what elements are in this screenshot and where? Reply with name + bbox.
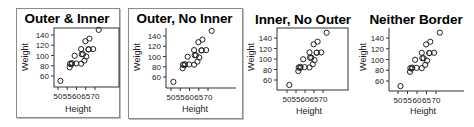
data-point <box>200 37 205 42</box>
plot-area: 60801001201405055606570 <box>356 0 474 127</box>
x-tick-label: 70 <box>432 96 441 105</box>
y-tick-label: 80 <box>152 63 161 72</box>
x-tick-label: 65 <box>194 93 203 102</box>
y-tick-label: 140 <box>36 31 50 40</box>
data-point <box>398 84 403 89</box>
data-point <box>413 57 418 62</box>
y-tick-label: 100 <box>371 56 385 65</box>
y-tick-label: 80 <box>40 62 49 71</box>
y-tick-label: 140 <box>371 34 385 43</box>
x-tick-label: 70 <box>91 92 100 101</box>
data-point <box>428 39 433 44</box>
panel-outer-no-inner: Outer, No Inner Weight Height 6080100120… <box>118 0 246 127</box>
y-tick-label: 60 <box>152 73 161 82</box>
x-tick-label: 50 <box>54 92 63 101</box>
x-tick-label: 50 <box>167 93 176 102</box>
y-tick-label: 80 <box>263 66 272 75</box>
y-tick-label: 120 <box>259 45 273 54</box>
plot-area: 60801001201405055606570 <box>118 0 246 127</box>
data-point <box>185 54 190 59</box>
data-point <box>209 28 214 33</box>
data-point <box>315 39 320 44</box>
y-tick-label: 120 <box>36 41 50 50</box>
x-tick-label: 55 <box>176 93 185 102</box>
y-tick-label: 120 <box>148 42 162 51</box>
y-tick-label: 120 <box>371 45 385 54</box>
data-point <box>79 61 84 66</box>
data-point <box>423 62 428 67</box>
x-tick-label: 65 <box>422 96 431 105</box>
data-point <box>87 36 92 41</box>
data-point <box>437 30 442 35</box>
panel-neither-border: Neither Border Weight Height 60801001201… <box>356 0 474 127</box>
x-tick-label: 60 <box>185 93 194 102</box>
y-tick-label: 80 <box>375 66 384 75</box>
x-tick-label: 65 <box>81 92 90 101</box>
data-point <box>307 50 312 55</box>
y-tick-label: 100 <box>148 53 162 62</box>
data-point <box>324 30 329 35</box>
panel-outer-and-inner: Outer & Inner Weight Height 608010012014… <box>0 0 120 127</box>
plot-area: 60801001201405055606570 <box>244 0 356 127</box>
x-tick-label: 60 <box>413 96 422 105</box>
x-tick-label: 60 <box>72 92 81 101</box>
x-tick-label: 55 <box>63 92 72 101</box>
data-point <box>192 47 197 52</box>
x-tick-label: 70 <box>319 95 328 104</box>
data-point <box>301 57 306 62</box>
data-point <box>79 46 84 51</box>
data-point <box>72 53 77 58</box>
x-tick-label: 50 <box>394 96 403 105</box>
x-tick-label: 55 <box>403 96 412 105</box>
y-tick-label: 140 <box>259 34 273 43</box>
y-tick-label: 60 <box>375 77 384 86</box>
y-tick-label: 60 <box>263 76 272 85</box>
panel-inner-no-outer: Inner, No Outer Weight Height 6080100120… <box>244 0 356 127</box>
y-tick-label: 60 <box>40 72 49 81</box>
y-tick-label: 140 <box>148 32 162 41</box>
y-tick-label: 100 <box>36 52 50 61</box>
plot-area: 60801001201405055606570 <box>0 0 120 127</box>
x-tick-label: 70 <box>204 93 213 102</box>
data-point <box>171 79 176 84</box>
y-tick-label: 100 <box>259 55 273 64</box>
data-point <box>58 78 63 83</box>
inner-border <box>54 28 119 87</box>
data-point <box>419 50 424 55</box>
data-point <box>287 82 292 87</box>
data-point <box>192 62 197 67</box>
